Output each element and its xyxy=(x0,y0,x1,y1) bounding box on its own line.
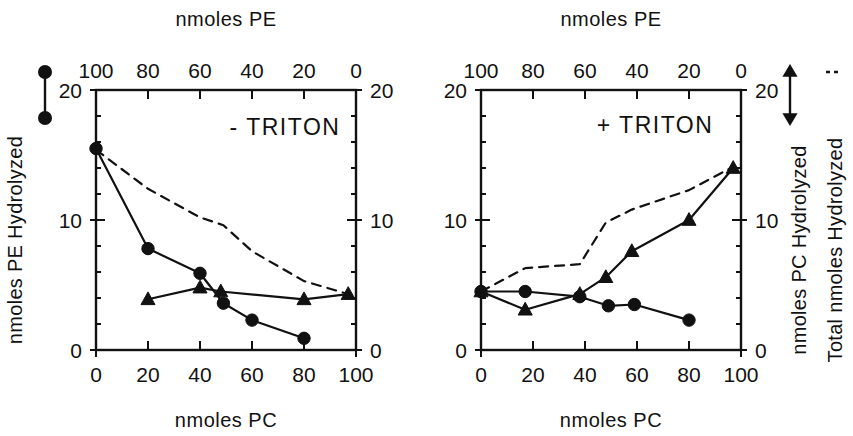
yticklabel-left-right-20: 20 xyxy=(444,79,467,102)
legend-right-triangle-down xyxy=(782,113,797,126)
datapoint-triangle-right-1-4 xyxy=(625,244,639,257)
series-line-right-1 xyxy=(481,168,733,310)
xticklabel-top-right-4: 20 xyxy=(677,59,700,82)
figure-root: 0204060801001008060402000010102020020406… xyxy=(0,0,853,436)
yticklabel-left-left-0: 0 xyxy=(70,339,82,362)
legend-right-triangle-up xyxy=(782,64,797,77)
axis-title-left-vertical: nmoles PE Hydrolyzed xyxy=(4,136,26,344)
yticklabel-right-right-20: 20 xyxy=(755,79,778,102)
xticklabel-top-right-0: 100 xyxy=(463,59,498,82)
datapoint-circle-right-0-5 xyxy=(683,314,695,326)
xticklabel-bottom-right-1: 20 xyxy=(521,363,544,386)
series-line-left-0 xyxy=(96,149,304,339)
datapoint-circle-left-0-5 xyxy=(298,332,310,344)
yticklabel-left-left-10: 10 xyxy=(59,209,82,232)
xticklabel-bottom-right-5: 100 xyxy=(723,363,758,386)
yticklabel-right-right-0: 0 xyxy=(755,339,767,362)
xticklabel-top-left-3: 40 xyxy=(240,59,263,82)
series-line-left-1 xyxy=(148,288,348,300)
datapoint-circle-right-0-4 xyxy=(628,298,640,310)
xticklabel-bottom-right-4: 80 xyxy=(677,363,700,386)
axis-title-right-outer-vertical: Total nmoles Hydrolyzed xyxy=(824,138,846,363)
axis-title-bottom-right: nmoles PC xyxy=(560,409,662,431)
figure-canvas: 0204060801001008060402000010102020020406… xyxy=(0,0,853,436)
xticklabel-top-left-5: 0 xyxy=(350,59,362,82)
xticklabel-bottom-right-2: 40 xyxy=(573,363,596,386)
xticklabel-bottom-right-0: 0 xyxy=(475,363,487,386)
legend-left-circle-bottom xyxy=(38,111,52,125)
xticklabel-top-left-0: 100 xyxy=(78,59,113,82)
yticklabel-left-left-20: 20 xyxy=(59,79,82,102)
yticklabel-left-right-10: 10 xyxy=(444,209,467,232)
panel-title-right: + TRITON xyxy=(597,112,714,138)
datapoint-circle-left-0-3 xyxy=(217,297,229,309)
datapoint-circle-left-0-1 xyxy=(142,242,154,254)
datapoint-circle-left-0-2 xyxy=(194,267,206,279)
xticklabel-bottom-right-3: 60 xyxy=(625,363,648,386)
datapoint-triangle-left-1-1 xyxy=(193,280,207,293)
xticklabel-bottom-left-5: 100 xyxy=(338,363,373,386)
axis-title-bottom-left: nmoles PC xyxy=(175,409,277,431)
xticklabel-top-right-5: 0 xyxy=(735,59,747,82)
legend-left-circle-top xyxy=(38,65,52,79)
datapoint-circle-right-0-1 xyxy=(519,285,531,297)
yticklabel-right-right-10: 10 xyxy=(755,209,778,232)
xticklabel-top-right-3: 40 xyxy=(625,59,648,82)
panel-title-left: - TRITON xyxy=(230,114,341,140)
xticklabel-bottom-left-2: 40 xyxy=(188,363,211,386)
yticklabel-right-left-10: 10 xyxy=(370,209,393,232)
xticklabel-bottom-left-1: 20 xyxy=(136,363,159,386)
xticklabel-top-left-1: 80 xyxy=(136,59,159,82)
xticklabel-bottom-left-4: 80 xyxy=(292,363,315,386)
xticklabel-top-right-2: 60 xyxy=(573,59,596,82)
axis-title-top-left: nmoles PE xyxy=(175,8,276,30)
axis-title-right-inner-vertical: nmoles PC Hydrolyzed xyxy=(788,145,810,354)
yticklabel-right-left-0: 0 xyxy=(370,339,382,362)
datapoint-circle-left-0-4 xyxy=(246,314,258,326)
xticklabel-bottom-left-3: 60 xyxy=(240,363,263,386)
yticklabel-right-left-20: 20 xyxy=(370,79,393,102)
datapoint-circle-right-0-3 xyxy=(602,300,614,312)
xticklabel-top-left-2: 60 xyxy=(188,59,211,82)
xticklabel-bottom-left-0: 0 xyxy=(90,363,102,386)
yticklabel-left-right-0: 0 xyxy=(455,339,467,362)
axis-title-top-right: nmoles PE xyxy=(560,8,661,30)
xticklabel-top-right-1: 80 xyxy=(521,59,544,82)
xticklabel-top-left-4: 20 xyxy=(292,59,315,82)
